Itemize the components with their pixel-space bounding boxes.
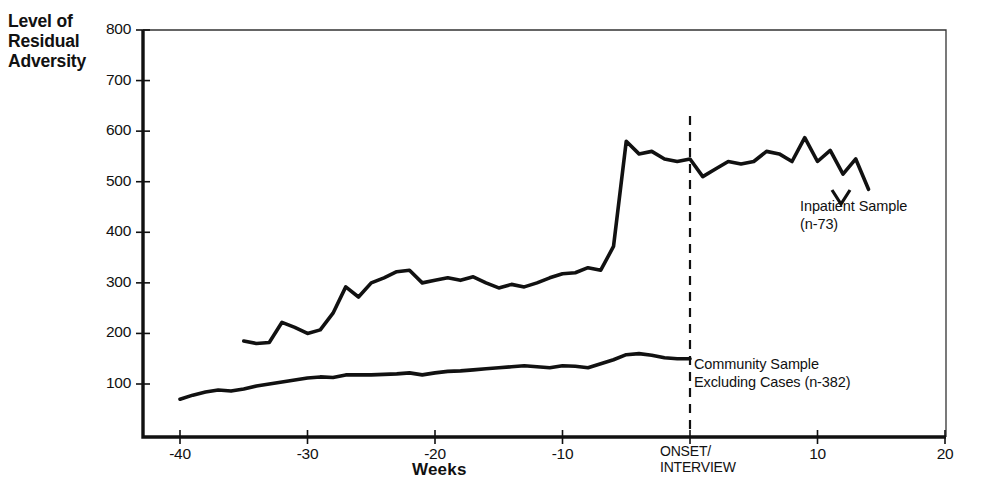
- y-tick-label: 100: [87, 374, 131, 392]
- x-tick-label: -30: [286, 445, 330, 463]
- y-tick-label: 400: [87, 222, 131, 240]
- series-line: [180, 354, 690, 400]
- community-sample-annotation: Community Sample Excluding Cases (n-382): [694, 356, 850, 391]
- inpatient-sample-annotation: Inpatient Sample (n-73): [800, 198, 907, 233]
- x-tick-label: 20: [923, 445, 967, 463]
- y-tick-label: 300: [87, 273, 131, 291]
- chart-figure: Level of Residual Adversity 100200300400…: [0, 0, 983, 500]
- x-tick-label: 10: [796, 445, 840, 463]
- y-tick-label: 500: [87, 172, 131, 190]
- x-tick-label: -10: [541, 445, 585, 463]
- y-tick-label: 700: [87, 71, 131, 89]
- y-tick-label: 800: [87, 20, 131, 38]
- series-line: [244, 138, 869, 344]
- y-tick-label: 200: [87, 323, 131, 341]
- x-tick-label: -40: [158, 445, 202, 463]
- chart-plot-area: [0, 0, 983, 500]
- y-tick-label: 600: [87, 121, 131, 139]
- x-axis-title: Weeks: [412, 460, 467, 480]
- onset-interview-label: ONSET/ INTERVIEW: [660, 444, 736, 475]
